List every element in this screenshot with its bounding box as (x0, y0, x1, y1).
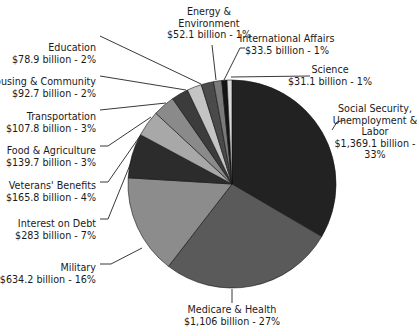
slice-label: Interest on Debt$283 billion - 7% (15, 218, 96, 241)
slice-label-name: Veterans' Benefits (9, 180, 96, 191)
slice-label-value: $139.7 billion - 3% (6, 157, 96, 168)
slice-label: Military$634.2 billion - 16% (0, 262, 96, 285)
slice-label-value: $634.2 billion - 16% (0, 274, 96, 285)
slice-label-name: International Affairs (240, 33, 335, 44)
slice-label-value: $165.8 billion - 4% (6, 192, 96, 203)
slice-label: International Affairs$33.5 billion - 1% (240, 33, 335, 56)
slice-label-name: Energy & (187, 6, 232, 17)
slice-label-value: Environment (178, 18, 239, 29)
slice-label-value: $1,369.1 billion - (335, 138, 416, 149)
slice-label: Science$31.1 billion - 1% (288, 64, 372, 87)
slice-label-name: Interest on Debt (18, 218, 96, 229)
slice-label: Transportation$107.8 billion - 3% (6, 111, 96, 134)
slice-label-value: Unemployment & (333, 115, 417, 126)
slice-label: Veterans' Benefits$165.8 billion - 4% (6, 180, 96, 203)
slice-label: Housing & Community$92.7 billion - 2% (0, 76, 96, 99)
slice-label-name: Education (48, 42, 96, 53)
slice-label-value: $283 billion - 7% (15, 230, 96, 241)
slice-label: Education$78.9 billion - 2% (12, 42, 96, 65)
slice-label-value: Labor (361, 126, 388, 137)
slice-label-value: $107.8 billion - 3% (6, 123, 96, 134)
slice-label-value: $78.9 billion - 2% (12, 54, 96, 65)
slice-label-value: $92.7 billion - 2% (12, 88, 96, 99)
slice-label-name: Housing & Community (0, 76, 96, 87)
slice-label: Energy &Environment$52.1 billion - 1% (167, 6, 251, 40)
leader-line (212, 45, 216, 80)
slice-label-name: Social Security, (338, 103, 412, 114)
slice-label-value: $31.1 billion - 1% (288, 76, 372, 87)
slice-label-value: $52.1 billion - 1% (167, 29, 251, 40)
leader-line (100, 36, 201, 84)
leader-line (100, 103, 166, 110)
slice-label: Social Security,Unemployment &Labor$1,36… (333, 103, 417, 160)
slice-label-name: Transportation (26, 111, 96, 122)
pie-chart: Social Security,Unemployment &Labor$1,36… (0, 0, 417, 333)
slice-label: Food & Agriculture$139.7 billion - 3% (6, 145, 96, 168)
slice-label: Medicare & Health$1,106 billion - 27% (184, 304, 280, 327)
slice-label-value: $1,106 billion - 27% (184, 316, 280, 327)
leader-line (100, 248, 142, 264)
slice-label-value: 33% (364, 149, 385, 160)
pie-slices (128, 80, 336, 288)
leader-line (224, 48, 245, 80)
slice-label-name: Science (311, 64, 348, 75)
leader-line (100, 160, 132, 219)
slice-label-name: Medicare & Health (188, 304, 277, 315)
slice-label-value: $33.5 billion - 1% (245, 45, 329, 56)
slice-label-name: Food & Agriculture (7, 145, 96, 156)
slice-label-name: Military (60, 262, 96, 273)
leader-line (100, 76, 186, 90)
